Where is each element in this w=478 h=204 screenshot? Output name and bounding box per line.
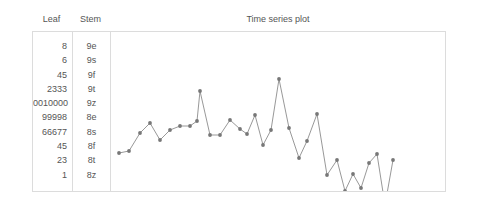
stem-column-spacer [73,32,110,39]
stem-cell: 8z [73,168,110,182]
stem-cell: 8s [73,125,110,139]
stem-cell: 9s [73,53,110,67]
data-point-marker [297,156,301,160]
data-point-marker [148,121,152,125]
stem-cell: 9e [73,39,110,53]
data-point-marker [253,113,257,117]
data-point-marker [269,128,273,132]
stem-cell: 8f [73,139,110,153]
stem-cell: 9f [73,68,110,82]
time-series-plot-panel [111,32,445,191]
data-point-marker [138,131,142,135]
data-point-marker [208,133,212,137]
leaf-cell: 0010000 [33,96,72,110]
leaf-cell: 45 [33,68,72,82]
data-point-marker [375,152,379,156]
data-point-marker [261,143,265,147]
header-time-series-plot: Time series plot [110,13,446,25]
leaf-cell: 6 [33,53,72,67]
data-point-marker [277,77,281,81]
data-point-marker [195,119,199,123]
stem-cell: 8t [73,153,110,167]
leaf-cell: 99998 [33,110,72,124]
data-point-marker [127,149,131,153]
leaf-cell: 45 [33,139,72,153]
data-point-marker [117,151,121,155]
stem-column: 9e9s9f9t9z8e8s8f8t8z [72,32,111,191]
leaf-cell: 66677 [33,125,72,139]
header-leaf: Leaf [32,13,71,25]
data-point-marker [391,158,395,162]
leaf-cell: 2333 [33,82,72,96]
data-point-marker [238,127,242,131]
data-point-marker [335,158,339,162]
time-series-chart [111,32,445,191]
data-point-marker [178,124,182,128]
data-point-marker [168,128,172,132]
column-headers: Leaf Stem Time series plot [32,13,446,29]
screenshot-root: Leaf Stem Time series plot 8645233300100… [0,0,478,204]
leaf-cell: 8 [33,39,72,53]
header-stem: Stem [71,13,110,25]
data-point-marker [351,172,355,176]
stem-cell: 9z [73,96,110,110]
stem-cell: 8e [73,110,110,124]
data-point-marker [218,133,222,137]
data-point-marker [158,138,162,142]
data-point-marker [325,173,329,177]
data-point-marker [315,112,319,116]
stem-leaf-table: 864523330010000999986667745231 9e9s9f9t9… [33,32,111,191]
data-point-marker [245,132,249,136]
leaf-column: 864523330010000999986667745231 [33,32,72,191]
stem-cell: 9t [73,82,110,96]
data-point-marker [228,118,232,122]
data-point-marker [287,126,291,130]
leaf-cell: 1 [33,168,72,182]
data-point-marker [305,139,309,143]
content-frame: 864523330010000999986667745231 9e9s9f9t9… [32,31,446,192]
leaf-column-spacer [33,32,72,39]
data-point-marker [188,124,192,128]
data-point-marker [198,89,202,93]
data-point-marker [367,161,371,165]
data-point-marker [343,189,347,191]
leaf-cell: 23 [33,153,72,167]
data-point-marker [359,186,363,190]
